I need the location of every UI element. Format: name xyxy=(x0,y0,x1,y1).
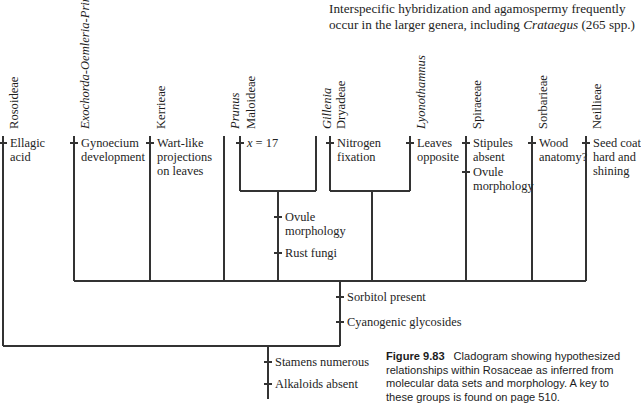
figure-caption: Figure 9.83Cladogram showing hypothesize… xyxy=(386,350,638,404)
character-label-wart-like-projections: Wart-like projections on leaves xyxy=(157,136,225,179)
taxon-label-sorbarieae: Sorbarieae xyxy=(537,75,550,129)
taxon-label-spiraeeae: Spiraeeae xyxy=(471,80,484,129)
character-label-stamens-numerous: Stamens numerous xyxy=(275,355,395,369)
taxon-label-kerrieae: Kerrieae xyxy=(155,86,168,129)
character-label-nitrogen-fixation: Nitrogen fixation xyxy=(337,136,412,164)
taxon-label-lyonothamnus: Lyonothamnus xyxy=(415,55,428,129)
taxon-label-exochorda: Exochorda-Oemleria-Prinsepia xyxy=(79,0,92,129)
taxon-label-neillieae: Neillieae xyxy=(591,84,604,129)
taxon-label-rosoideae: Rosoideae xyxy=(8,77,21,129)
character-label-ovule-morphology-maloid: Ovule morphology xyxy=(285,210,341,238)
taxon-label-maloideae: Maloideae xyxy=(245,76,258,129)
character-label-ovule-morphology-spiraeeae: Ovule morphology xyxy=(473,165,531,193)
character-label-chromosome-number: x = 17 xyxy=(247,136,317,150)
character-label-seed-coat: Seed coat hard and shining xyxy=(593,136,641,179)
taxon-label-dryadeae: Dryadeae xyxy=(335,81,348,129)
character-label-leaves-opposite: Leaves opposite xyxy=(417,136,469,164)
character-label-rust-fungi: Rust fungi xyxy=(285,246,345,260)
character-label-alkaloids-absent: Alkaloids absent xyxy=(275,377,395,391)
figure-number: Figure 9.83 xyxy=(386,350,445,362)
character-label-cyanogenic-glycosides: Cyanogenic glycosides xyxy=(347,315,487,329)
taxon-label-prunus: Prunus xyxy=(229,93,242,129)
character-label-wood-anatomy: Wood anatomy? xyxy=(539,136,589,164)
character-label-ellagic-acid: Ellagic acid xyxy=(10,136,68,164)
character-label-gynoecium-development: Gynoecium development xyxy=(81,136,151,164)
taxon-label-gillenia: Gillenia xyxy=(321,88,334,129)
character-label-stipules-absent: Stipules absent xyxy=(473,136,531,164)
character-label-sorbitol-present: Sorbitol present xyxy=(347,290,467,304)
